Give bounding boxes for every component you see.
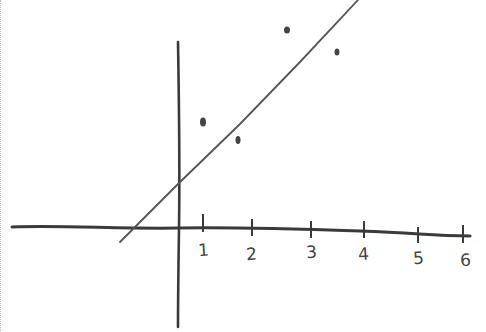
data-points	[200, 27, 340, 145]
sketch-chart	[0, 0, 486, 332]
x-tick-label-1: 1	[197, 240, 209, 261]
data-point	[236, 136, 241, 144]
data-point	[335, 49, 340, 56]
x-tick-label-5: 5	[412, 248, 424, 269]
x-tick-label-6: 6	[459, 250, 471, 271]
x-tick-label-3: 3	[305, 242, 317, 263]
fit-line	[120, 0, 358, 242]
x-tick-label-4: 4	[357, 244, 369, 265]
data-point	[200, 118, 206, 127]
data-point	[284, 27, 290, 34]
x-tick-label-2: 2	[245, 244, 257, 265]
x-axis	[12, 226, 470, 236]
